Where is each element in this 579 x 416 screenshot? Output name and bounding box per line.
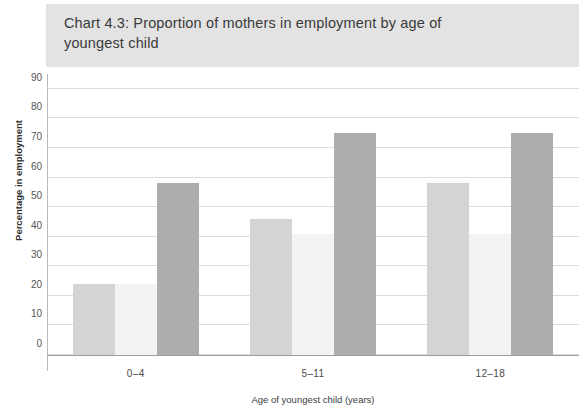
y-axis-tick-label: 80 [16, 101, 42, 112]
x-axis-tick-labels: 0–45–1112–18 [47, 368, 579, 384]
bar [469, 234, 511, 355]
y-axis-tick-label: 10 [16, 308, 42, 319]
y-axis-tick-label: 70 [16, 131, 42, 142]
bar [250, 219, 292, 355]
bar [73, 284, 115, 355]
chart-title-banner: Chart 4.3: Proportion of mothers in empl… [46, 4, 579, 67]
page-title: Chart 4.3: Proportion of mothers in empl… [64, 13, 534, 53]
x-axis-tick-label: 12–18 [475, 368, 505, 379]
y-axis-tick-label: 30 [16, 249, 42, 260]
bar [427, 183, 469, 355]
x-axis-tick-label: 0–4 [127, 368, 145, 379]
bar [292, 234, 334, 355]
y-axis-tick-label: 60 [16, 161, 42, 172]
bar [511, 133, 553, 355]
y-axis-tick-label: 0 [16, 338, 42, 349]
x-axis-line [47, 355, 579, 356]
y-axis-tick-label: 90 [16, 72, 42, 83]
y-axis-tick-label: 50 [16, 190, 42, 201]
y-axis-tick-labels: 0102030405060708090 [8, 74, 42, 355]
y-axis-tick-label: 20 [16, 279, 42, 290]
x-axis-tick-label: 5–11 [301, 368, 324, 379]
bars-layer [47, 74, 579, 355]
bar [115, 284, 157, 355]
bar [334, 133, 376, 355]
y-axis-tick-label: 40 [16, 220, 42, 231]
x-axis-title: Age of youngest child (years) [47, 394, 579, 405]
bar [157, 183, 199, 355]
